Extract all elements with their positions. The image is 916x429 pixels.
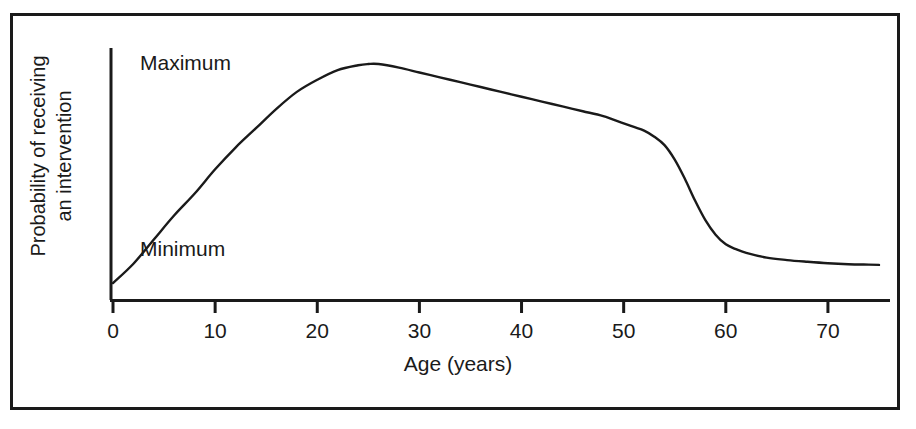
x-axis-tick-label-60: 60	[696, 320, 756, 341]
x-axis-tick-label-40: 40	[492, 320, 552, 341]
x-axis-tick-label-50: 50	[594, 320, 654, 341]
intervention-probability-curve	[113, 64, 879, 283]
y-axis-title-wrapper: Probability of receiving an intervention	[0, 26, 182, 286]
figure-container: Maximum Minimum 010203040506070 Age (yea…	[0, 0, 916, 429]
y-axis-title: Probability of receiving an intervention	[26, 55, 77, 256]
data-curve-layer	[113, 64, 879, 283]
x-axis-title: Age (years)	[0, 352, 916, 376]
x-axis-tick-label-10: 10	[185, 320, 245, 341]
x-axis-tick-label-30: 30	[389, 320, 449, 341]
x-axis-tick-label-70: 70	[798, 320, 858, 341]
x-axis-tick-label-20: 20	[287, 320, 347, 341]
y-axis-title-line-1: Probability of receiving	[27, 55, 49, 256]
x-axis-tick-label-0: 0	[83, 320, 143, 341]
y-axis-title-line-2: an intervention	[52, 55, 78, 256]
